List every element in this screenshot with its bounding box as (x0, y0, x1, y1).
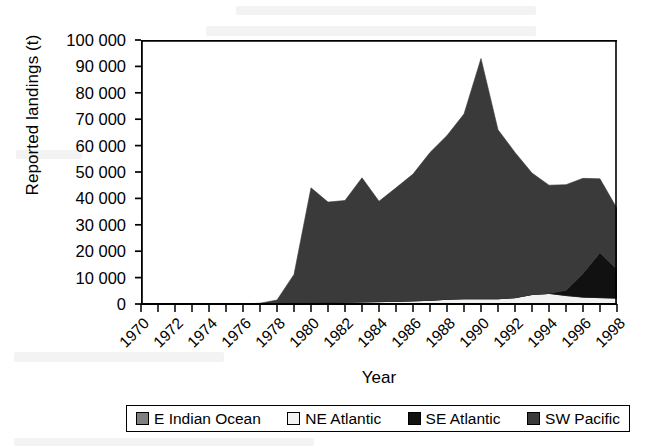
x-tick-label: 1984 (348, 315, 390, 357)
x-tick-label: 1996 (552, 315, 594, 357)
chart-legend: E Indian Ocean NE Atlantic SE Atlantic S… (126, 405, 630, 432)
x-tick-label: 1980 (280, 315, 322, 357)
x-tick-label: 1988 (416, 315, 458, 357)
x-tick-label: 1976 (212, 315, 254, 357)
x-tick-label: 1992 (484, 315, 526, 357)
legend-swatch-icon (136, 412, 149, 425)
legend-item-label: SW Pacific (545, 411, 620, 427)
legend-item-sw-pacific[interactable]: SW Pacific (527, 411, 620, 427)
legend-item-ne-atlantic[interactable]: NE Atlantic (287, 411, 381, 427)
x-tick-label: 1972 (144, 315, 186, 357)
x-tick-label: 1998 (586, 315, 628, 357)
legend-swatch-icon (408, 412, 421, 425)
x-tick-label: 1974 (178, 315, 220, 357)
x-tick-label: 1994 (518, 315, 560, 357)
x-tick-label: 1990 (450, 315, 492, 357)
legend-swatch-icon (287, 412, 300, 425)
legend-item-se-atlantic[interactable]: SE Atlantic (408, 411, 501, 427)
x-tick-label: 1982 (314, 315, 356, 357)
legend-item-e-indian-ocean[interactable]: E Indian Ocean (136, 411, 261, 427)
legend-item-label: E Indian Ocean (154, 411, 261, 427)
legend-item-label: SE Atlantic (426, 411, 501, 427)
legend-swatch-icon (527, 412, 540, 425)
x-tick-label: 1970 (110, 315, 152, 357)
x-axis-title: Year (141, 368, 617, 388)
stacked-area-chart: Reported landings (t) 100 000 90 000 80 … (0, 0, 652, 446)
x-tick-label: 1986 (382, 315, 424, 357)
legend-item-label: NE Atlantic (305, 411, 381, 427)
x-tick-label: 1978 (246, 315, 288, 357)
